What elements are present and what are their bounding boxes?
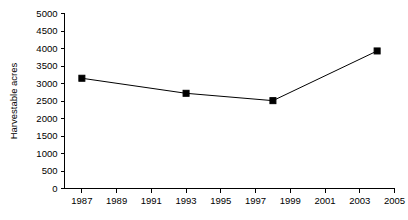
x-tick-label: 2001 — [314, 195, 335, 206]
y-tick-label: 3500 — [36, 60, 57, 71]
x-tick-label: 2005 — [384, 195, 405, 206]
data-point-marker — [270, 98, 276, 104]
data-point-marker — [79, 75, 85, 81]
y-tick-label: 2000 — [36, 113, 57, 124]
y-tick-label: 2500 — [36, 95, 57, 106]
y-tick-label: 1000 — [36, 148, 57, 159]
x-tick-label: 1989 — [106, 195, 127, 206]
x-tick-label: 1995 — [210, 195, 231, 206]
x-tick-label: 2003 — [349, 195, 370, 206]
x-tick-label: 1993 — [176, 195, 197, 206]
x-tick-label: 1991 — [141, 195, 162, 206]
y-tick-label: 4000 — [36, 43, 57, 54]
y-tick-label: 3000 — [36, 78, 57, 89]
y-tick-label: 500 — [42, 165, 58, 176]
line-chart-figure: 0500100015002000250030003500400045005000… — [0, 0, 408, 220]
x-tick-label: 1987 — [71, 195, 92, 206]
y-axis-title: Harvestable acres — [8, 62, 19, 139]
x-tick-label: 1997 — [245, 195, 266, 206]
y-tick-label: 0 — [52, 183, 57, 194]
y-tick-label: 5000 — [36, 8, 57, 19]
y-tick-label: 4500 — [36, 25, 57, 36]
chart-canvas: 0500100015002000250030003500400045005000… — [0, 0, 408, 220]
data-point-marker — [183, 90, 189, 96]
x-tick-label: 1999 — [280, 195, 301, 206]
y-tick-label: 1500 — [36, 130, 57, 141]
data-point-marker — [374, 48, 380, 54]
chart-background — [0, 0, 408, 220]
